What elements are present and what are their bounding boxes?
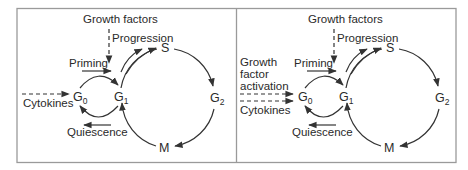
phase-g2: G2 (210, 91, 225, 107)
priming-label: Priming (69, 57, 108, 69)
g0-to-g1-arrow (80, 76, 118, 88)
s-to-g2-arrow (399, 49, 438, 86)
phase-g0: G0 (298, 90, 313, 106)
cytokines-label: Cytokines (23, 97, 74, 109)
s-to-g2-arrow (174, 49, 213, 86)
growth-factor-activation-label-1: Growth (240, 56, 277, 68)
phase-g2: G2 (435, 91, 450, 107)
priming-label: Priming (294, 57, 333, 69)
phase-g0: G0 (73, 90, 88, 106)
phase-s: S (386, 41, 394, 55)
phase-s: S (161, 41, 169, 55)
cytokines-label: Cytokines (240, 104, 291, 116)
quiescence-label: Quiescence (67, 126, 128, 138)
g1-to-g0-arrow (80, 106, 118, 117)
phase-m: M (384, 141, 394, 155)
growth-factors-label: Growth factors (308, 13, 383, 25)
growth-factors-label: Growth factors (83, 13, 158, 25)
g1-to-g0-arrow (305, 106, 343, 117)
growth-factor-activation-label-3: activation (240, 80, 289, 92)
phase-m: M (159, 141, 169, 155)
g2-to-m-arrow (400, 109, 439, 146)
g2-to-m-arrow (175, 109, 214, 146)
cell-cycle-diagram: Growth factors Progression Priming Quies… (0, 0, 468, 170)
m-to-g1-arrow (347, 103, 381, 146)
quiescence-label: Quiescence (292, 126, 353, 138)
g1-to-s-arc (121, 49, 157, 88)
progression-arrow-1 (121, 49, 142, 72)
panel-left: Growth factors Progression Priming Quies… (22, 13, 225, 155)
phase-g1: G1 (114, 90, 129, 106)
progression-arrow-2 (351, 48, 381, 74)
m-to-g1-arrow (122, 103, 156, 146)
phase-g1: G1 (339, 90, 354, 106)
g1-to-s-arc (346, 49, 382, 88)
progression-arrow-2 (126, 48, 156, 74)
progression-arrow-1 (346, 49, 367, 72)
g0-to-g1-arrow (305, 76, 343, 88)
growth-factor-activation-label-2: factor (240, 68, 269, 80)
panel-right: Growth factors Progression Priming Quies… (240, 13, 450, 155)
